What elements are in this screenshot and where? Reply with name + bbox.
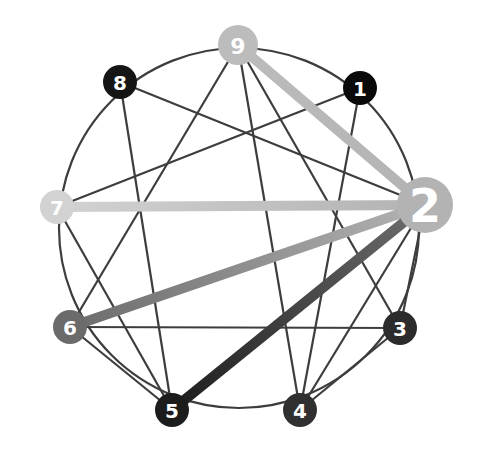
point-6[interactable]: 6 (53, 310, 87, 344)
enneagram-diagram: 123456789 (0, 0, 488, 450)
line-8-2 (120, 82, 425, 205)
point-4[interactable]: 4 (283, 393, 317, 427)
point-5[interactable]: 5 (155, 393, 189, 427)
point-6-label: 6 (63, 316, 77, 340)
point-7-label: 7 (50, 196, 64, 220)
highlighted-line-2-6 (70, 205, 425, 327)
point-1[interactable]: 1 (343, 71, 377, 105)
point-3[interactable]: 3 (383, 311, 417, 345)
point-2[interactable]: 2 (397, 177, 453, 233)
point-4-label: 4 (293, 399, 307, 423)
point-9-label: 9 (230, 34, 245, 59)
point-8[interactable]: 8 (103, 65, 137, 99)
point-9[interactable]: 9 (218, 25, 258, 65)
line-3-4 (300, 328, 400, 410)
point-1-label: 1 (353, 77, 367, 101)
line-8-5 (120, 82, 172, 410)
point-8-label: 8 (113, 71, 127, 95)
point-3-label: 3 (393, 317, 407, 341)
line-6-5 (70, 327, 172, 410)
point-2-label: 2 (409, 179, 441, 233)
line-9-6 (70, 45, 238, 327)
point-7[interactable]: 7 (40, 190, 74, 224)
point-5-label: 5 (165, 399, 179, 423)
highlighted-line-2-7 (57, 205, 425, 207)
